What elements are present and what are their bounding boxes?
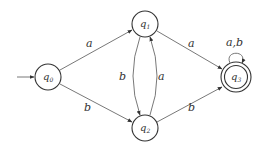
edge-q2-q1	[150, 37, 157, 115]
edge-label-q3-q3: a,b	[226, 36, 243, 49]
edge-label-q2-q1: a	[158, 70, 165, 83]
state-q1: q1	[132, 11, 158, 37]
edge-label-q1-q2: b	[119, 70, 126, 83]
edge-label-q0-q1: a	[86, 37, 93, 50]
edge-label-q2-q3: b	[188, 101, 195, 114]
state-q2: q2	[132, 115, 158, 141]
edge-q0-q2	[60, 84, 132, 122]
edge-q0-q1	[60, 30, 132, 70]
state-q3-accepting: q3	[221, 62, 251, 92]
dfa-diagram: a b b a a b a,b q0 q1 q2 q3	[0, 0, 265, 149]
edge-label-q0-q2: b	[84, 101, 91, 114]
edge-label-q1-q3: a	[188, 37, 195, 50]
state-q0: q0	[35, 64, 61, 90]
edge-q1-q2	[133, 37, 140, 115]
